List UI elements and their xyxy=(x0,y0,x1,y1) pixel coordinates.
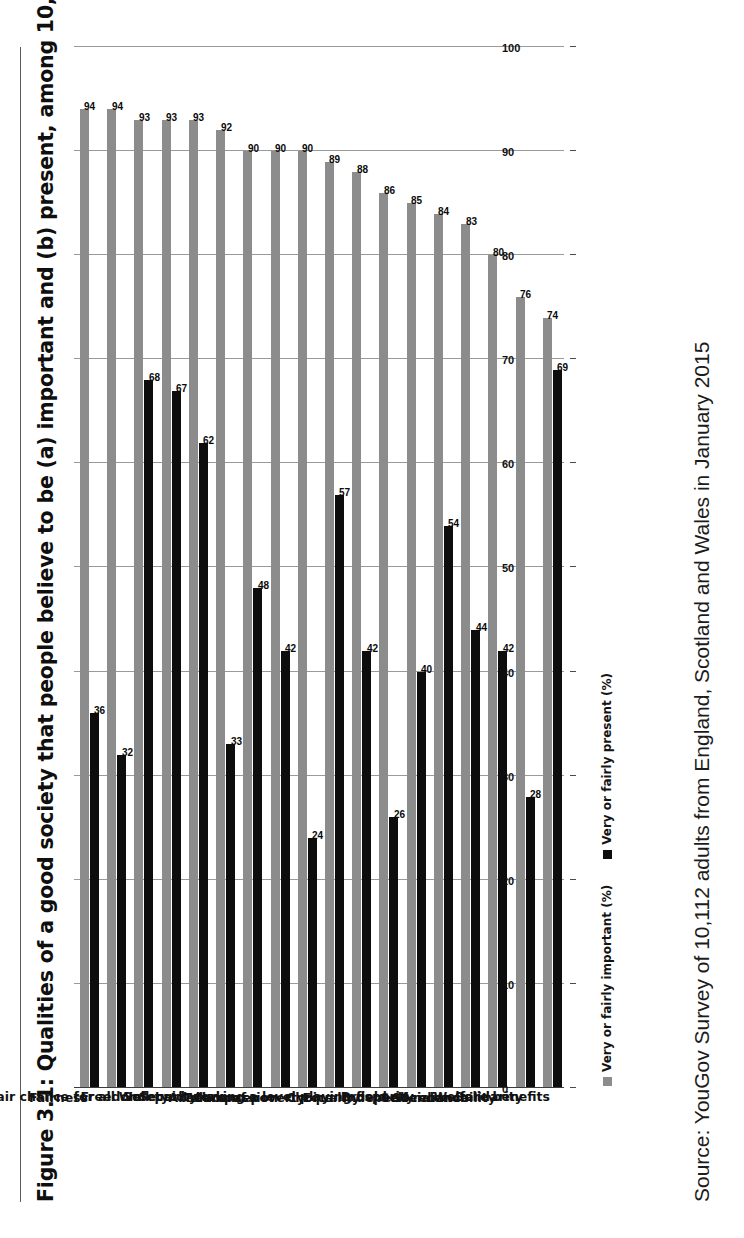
bar-important: 89 xyxy=(325,162,334,1088)
axis-tick-label: 80 xyxy=(502,250,514,262)
axis-tick-label: 40 xyxy=(502,667,514,679)
bar-value-label: 93 xyxy=(139,111,150,122)
bar-value-label: 88 xyxy=(357,163,368,174)
axis-tick-label: 30 xyxy=(502,771,514,783)
bar-value-label: 57 xyxy=(339,486,350,497)
axis-tick-label: 50 xyxy=(502,563,514,575)
axis-tick-40 xyxy=(570,671,576,672)
bar-value-label: 54 xyxy=(448,517,459,528)
bar-value-label: 76 xyxy=(520,288,531,299)
bar-value-label: 89 xyxy=(329,153,340,164)
bar-value-label: 90 xyxy=(275,143,286,154)
bar-important: 80 xyxy=(488,255,497,1088)
axis-tick-label: 100 xyxy=(502,42,520,54)
bar-value-label: 68 xyxy=(149,372,160,383)
figure-stage: Figure 3.1: Qualities of a good society … xyxy=(0,0,744,1238)
bar-present: 67 xyxy=(172,391,181,1088)
bar-important: 76 xyxy=(516,297,525,1088)
bar-value-label: 94 xyxy=(84,101,95,112)
bar-present: 42 xyxy=(362,651,371,1088)
axis-tick-70 xyxy=(570,358,576,359)
axis-tick-20 xyxy=(570,879,576,880)
top-divider xyxy=(20,47,21,1202)
bar-value-label: 84 xyxy=(438,205,449,216)
axis-tick-10 xyxy=(570,983,576,984)
bar-value-label: 42 xyxy=(503,642,514,653)
bar-important: 74 xyxy=(543,318,552,1088)
bar-present: 42 xyxy=(498,651,507,1088)
bar-important: 86 xyxy=(379,193,388,1088)
axis-tick-80 xyxy=(570,254,576,255)
axis-tick-label: 60 xyxy=(502,458,514,470)
bar-value-label: 86 xyxy=(384,184,395,195)
bar-present: 24 xyxy=(308,838,317,1088)
axis-tick-50 xyxy=(570,567,576,568)
legend-swatch-present xyxy=(603,850,612,859)
category-axis xyxy=(74,1087,564,1088)
bar-value-label: 92 xyxy=(221,122,232,133)
bar-present: 28 xyxy=(526,797,535,1088)
bar-important: 92 xyxy=(216,130,225,1088)
gridline-90 xyxy=(74,150,564,151)
axis-tick-30 xyxy=(570,775,576,776)
figure-title: Figure 3.1: Qualities of a good society … xyxy=(34,42,58,1202)
bar-present: 48 xyxy=(253,588,262,1088)
bar-value-label: 90 xyxy=(248,143,259,154)
bar-present: 42 xyxy=(281,651,290,1088)
bar-important: 90 xyxy=(243,151,252,1088)
bar-important: 93 xyxy=(134,120,143,1088)
bar-value-label: 42 xyxy=(367,642,378,653)
bar-present: 40 xyxy=(417,672,426,1088)
axis-tick-60 xyxy=(570,462,576,463)
axis-tick-0 xyxy=(570,1087,576,1088)
bar-present: 57 xyxy=(335,495,344,1088)
bar-value-label: 36 xyxy=(94,705,105,716)
legend-label: Very or fairly important (%) xyxy=(600,885,614,1072)
axis-tick-label: 70 xyxy=(502,354,514,366)
bar-value-label: 28 xyxy=(530,788,541,799)
bar-value-label: 74 xyxy=(547,309,558,320)
bar-important: 93 xyxy=(189,120,198,1088)
bar-important: 83 xyxy=(461,224,470,1088)
bar-important: 85 xyxy=(407,203,416,1088)
bar-value-label: 32 xyxy=(122,746,133,757)
bar-value-label: 93 xyxy=(166,111,177,122)
plot-area: 9436943293689367936292339048904290248957… xyxy=(74,47,564,1088)
category-label: Welfare benefits xyxy=(434,1090,550,1105)
bar-value-label: 33 xyxy=(231,736,242,747)
bar-present: 54 xyxy=(444,526,453,1088)
bar-present: 26 xyxy=(389,817,398,1088)
bar-value-label: 69 xyxy=(557,361,568,372)
legend-label: Very or fairly present (%) xyxy=(600,673,614,845)
bar-value-label: 44 xyxy=(476,621,487,632)
gridline-100 xyxy=(74,46,564,47)
bar-important: 94 xyxy=(80,109,89,1088)
bar-important: 90 xyxy=(298,151,307,1088)
bar-value-label: 26 xyxy=(394,809,405,820)
bar-value-label: 90 xyxy=(302,143,313,154)
legend-swatch-important xyxy=(603,1077,612,1086)
bar-value-label: 24 xyxy=(312,830,323,841)
bar-value-label: 67 xyxy=(176,382,187,393)
bar-present: 36 xyxy=(90,713,99,1088)
bar-value-label: 83 xyxy=(466,215,477,226)
bar-important: 88 xyxy=(352,172,361,1088)
bar-present: 33 xyxy=(226,744,235,1088)
bar-present: 62 xyxy=(199,443,208,1088)
bar-important: 93 xyxy=(162,120,171,1088)
axis-tick-100 xyxy=(570,46,576,47)
bar-value-label: 85 xyxy=(411,195,422,206)
bar-important: 84 xyxy=(434,214,443,1088)
bar-present: 68 xyxy=(144,380,153,1088)
bar-important: 94 xyxy=(107,109,116,1088)
axis-tick-90 xyxy=(570,150,576,151)
legend-item[interactable]: Very or fairly important (%) xyxy=(600,885,614,1086)
bar-value-label: 40 xyxy=(421,663,432,674)
legend-item[interactable]: Very or fairly present (%) xyxy=(600,673,614,859)
source-note: Source: YouGov Survey of 10,112 adults f… xyxy=(690,342,714,1202)
axis-tick-label: 10 xyxy=(502,979,514,991)
axis-tick-label: 20 xyxy=(502,875,514,887)
bar-present: 32 xyxy=(117,755,126,1088)
chart-legend: Very or fairly important (%)Very or fair… xyxy=(600,673,614,1086)
bar-present: 69 xyxy=(553,370,562,1088)
